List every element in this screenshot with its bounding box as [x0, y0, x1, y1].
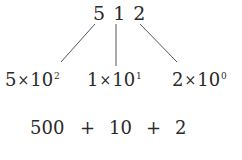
- term-digit: 2: [172, 69, 183, 90]
- plus-operator-1: +: [80, 116, 95, 140]
- digit-tens: 1: [113, 2, 126, 24]
- expansion-term-tens: 1×101: [87, 68, 142, 93]
- term-digit: 5: [5, 69, 16, 90]
- term-base: 10: [30, 69, 53, 90]
- connector-line-hundreds: [61, 24, 95, 62]
- plus-operator-2: +: [146, 116, 161, 140]
- sum-value-tens: 10: [109, 116, 132, 140]
- term-base: 10: [197, 69, 220, 90]
- times-sign: ×: [98, 72, 112, 88]
- expansion-term-ones: 2×100: [172, 68, 227, 93]
- digit-hundreds: 5: [93, 2, 106, 24]
- term-exponent: 0: [221, 71, 227, 81]
- sum-value-ones: 2: [175, 116, 186, 140]
- times-sign: ×: [183, 72, 197, 88]
- term-base: 10: [112, 69, 135, 90]
- number-512: 5 1 2: [93, 2, 146, 24]
- digit-ones: 2: [133, 2, 146, 24]
- term-exponent: 2: [54, 71, 60, 81]
- expansion-term-hundreds: 5×102: [5, 68, 60, 93]
- connector-line-ones: [140, 24, 177, 62]
- term-exponent: 1: [136, 71, 142, 81]
- times-sign: ×: [16, 72, 30, 88]
- sum-value-hundreds: 500: [30, 116, 64, 140]
- term-digit: 1: [87, 69, 98, 90]
